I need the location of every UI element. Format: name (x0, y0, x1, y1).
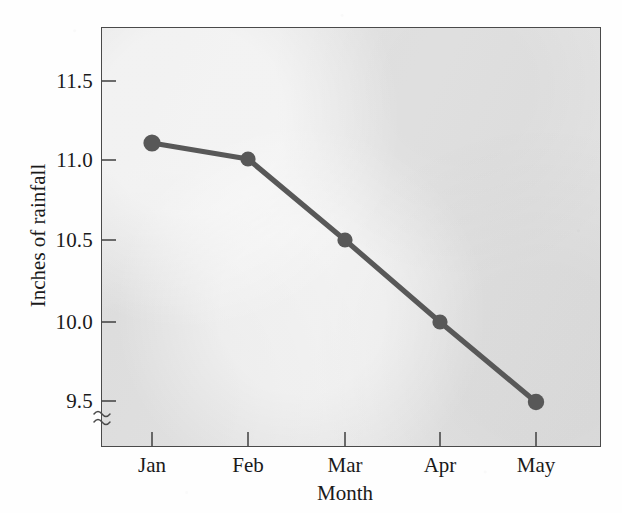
x-axis-tick-labels: Jan Feb Mar Apr May (0, 455, 622, 485)
y-tick-label-11-5: 11.5 (7, 71, 93, 92)
x-tick-label-jan: Jan (104, 455, 200, 476)
y-tick-label-10-5: 10.5 (7, 230, 93, 251)
x-tick-label-mar: Mar (297, 455, 393, 476)
y-tick-label-9-5: 9.5 (7, 391, 93, 412)
y-tick-label-10-0: 10.0 (7, 312, 93, 333)
x-tick-label-feb: Feb (200, 455, 296, 476)
x-tick-label-may: May (488, 455, 584, 476)
chart-page: 11.5 11.0 10.5 10.0 9.5 Jan Feb Mar Apr … (0, 0, 622, 513)
plot-area (101, 27, 601, 447)
plot-background-texture (102, 28, 600, 446)
x-axis-title: Month (245, 483, 445, 504)
x-tick-label-apr: Apr (392, 455, 488, 476)
y-tick-label-11-0: 11.0 (7, 150, 93, 171)
y-axis-title: Inches of rainfall (28, 136, 49, 336)
